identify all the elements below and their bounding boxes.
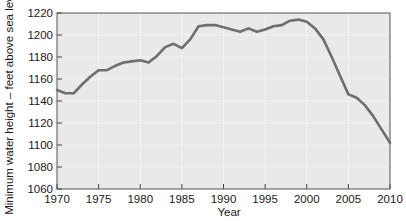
x-tick-label: 1975 bbox=[86, 193, 112, 205]
x-tick-label: 2000 bbox=[294, 193, 320, 205]
x-tick-label: 1995 bbox=[252, 193, 278, 205]
line-chart-figure: 106010801100112011401160118012001220 197… bbox=[0, 0, 406, 221]
y-tick-label: 1100 bbox=[28, 139, 53, 151]
x-tick-label: 1980 bbox=[127, 193, 153, 205]
x-axis-tick-labels: 197019751980198519901995200020052010 bbox=[44, 193, 403, 205]
x-tick-label: 1990 bbox=[211, 193, 237, 205]
y-tick-label: 1200 bbox=[27, 29, 53, 41]
x-tick-label: 1970 bbox=[44, 193, 70, 205]
y-tick-label: 1160 bbox=[28, 73, 53, 85]
x-tick-label: 2005 bbox=[336, 193, 362, 205]
x-axis-title: Year bbox=[217, 206, 240, 218]
x-tick-label: 1985 bbox=[169, 193, 195, 205]
y-axis-tick-labels: 106010801100112011401160118012001220 bbox=[27, 7, 53, 195]
y-tick-label: 1120 bbox=[28, 117, 53, 129]
chart-container: 106010801100112011401160118012001220 197… bbox=[0, 0, 406, 221]
y-tick-label: 1140 bbox=[28, 95, 53, 107]
y-tick-label: 1220 bbox=[27, 7, 53, 19]
y-tick-label: 1080 bbox=[27, 161, 53, 173]
y-tick-label: 1180 bbox=[28, 51, 53, 63]
y-axis-title: Minimum water height – feet above sea le… bbox=[3, 0, 15, 215]
x-tick-label: 2010 bbox=[377, 193, 403, 205]
